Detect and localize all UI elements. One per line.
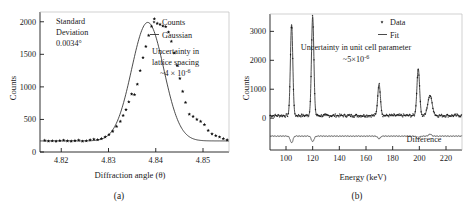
panel-b-xaxis-title: Energy (keV) bbox=[340, 172, 387, 182]
lat-line-2: lattice spacing bbox=[152, 58, 199, 67]
panel-a-ytick-4: 2000 bbox=[20, 18, 36, 27]
panel-a-ytick-1: 500 bbox=[24, 115, 36, 124]
panel-b: 1001201401601802002200100020003000 Energ… bbox=[238, 0, 476, 206]
panel-b-yaxis-title: Counts bbox=[241, 75, 251, 100]
panel-b-legend: Data Fit bbox=[378, 18, 406, 40]
panel-b-caption: (b) bbox=[352, 191, 363, 202]
panel-b-legend-label-fit: Fit bbox=[390, 31, 400, 40]
panel-a-xtick-0: 4.82 bbox=[54, 156, 68, 165]
panel-b-ytick-0: 0 bbox=[262, 114, 266, 123]
sd-line-3: 0.0034° bbox=[56, 39, 82, 48]
panel-a-legend-marker-counts bbox=[153, 21, 156, 24]
panel-b-xtick-2: 140 bbox=[333, 154, 345, 163]
panel-b-cell-uncertainty-annotation: Uncertainty in unit cell parameter ~5×10… bbox=[301, 43, 412, 64]
panel-b-xtick-5: 200 bbox=[413, 154, 425, 163]
panel-b-ytick-3: 3000 bbox=[250, 27, 266, 36]
cell-line-1: Uncertainty in unit cell parameter bbox=[301, 43, 412, 52]
cell-exponent: -6 bbox=[364, 54, 369, 60]
panel-b-data-points bbox=[269, 15, 462, 118]
lat-value: ~4 × 10 bbox=[160, 69, 185, 78]
panel-a-lattice-uncertainty-annotation: Uncertainty in lattice spacing ~4 × 10-6 bbox=[152, 47, 199, 78]
sd-line-1: Standard bbox=[56, 17, 85, 26]
panel-b-legend-label-data: Data bbox=[390, 18, 406, 27]
panel-a-xtick-2: 4.84 bbox=[149, 156, 163, 165]
panel-a-yaxis-title: Counts bbox=[8, 75, 18, 100]
panel-a-caption: (a) bbox=[114, 191, 124, 202]
panel-b-xtick-3: 160 bbox=[360, 154, 372, 163]
cell-value: ~5×10 bbox=[343, 55, 364, 64]
panel-b-xtick-4: 180 bbox=[387, 154, 399, 163]
panel-a-plot: 4.824.834.844.850500100015002000 Diffrac… bbox=[0, 0, 238, 206]
panel-a-ytick-3: 1500 bbox=[20, 50, 36, 59]
panel-b-ytick-1: 1000 bbox=[250, 85, 266, 94]
panel-b-fit-curve bbox=[270, 17, 462, 116]
panel-a-ytick-2: 1000 bbox=[20, 83, 36, 92]
panel-a-standard-deviation-annotation: Standard Deviation 0.0034° bbox=[56, 17, 88, 48]
panel-b-xtick-1: 120 bbox=[307, 154, 319, 163]
panel-a: 4.824.834.844.850500100015002000 Diffrac… bbox=[0, 0, 238, 206]
panel-a-ytick-0: 0 bbox=[32, 148, 36, 157]
lat-exponent: -6 bbox=[185, 68, 190, 74]
lat-line-1: Uncertainty in bbox=[152, 47, 199, 56]
panel-b-xtick-6: 220 bbox=[440, 154, 452, 163]
sd-line-2: Deviation bbox=[56, 28, 88, 37]
panel-a-legend: Counts Gaussian bbox=[150, 18, 192, 40]
panel-a-xtick-1: 4.83 bbox=[101, 156, 115, 165]
panel-b-difference-label: Difference bbox=[407, 135, 442, 144]
panel-a-legend-label-gaussian: Gaussian bbox=[162, 31, 192, 40]
panel-a-legend-label-counts: Counts bbox=[162, 18, 185, 27]
panel-b-xtick-0: 100 bbox=[280, 154, 292, 163]
cell-line-2: ~5×10-6 bbox=[343, 54, 369, 64]
panel-a-xaxis-title: Diffraction angle (θ) bbox=[95, 170, 166, 180]
lat-line-3: ~4 × 10-6 bbox=[160, 68, 190, 78]
figure-container: 4.824.834.844.850500100015002000 Diffrac… bbox=[0, 0, 476, 206]
panel-a-xtick-3: 4.85 bbox=[196, 156, 210, 165]
panel-b-plot: 1001201401601802002200100020003000 Energ… bbox=[238, 0, 476, 206]
panel-b-ytick-2: 2000 bbox=[250, 56, 266, 65]
panel-b-legend-marker-data bbox=[381, 21, 384, 24]
